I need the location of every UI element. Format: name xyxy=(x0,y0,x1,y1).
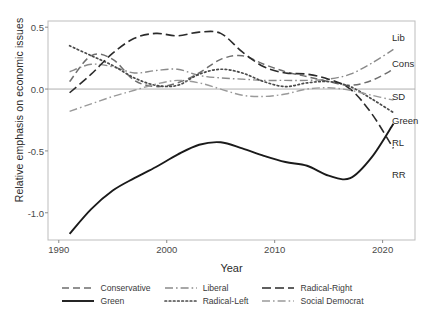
series-line-green xyxy=(70,124,394,234)
series-label-sd: SD xyxy=(392,91,405,102)
x-axis-tick-2: 2010 xyxy=(264,244,285,255)
liberal-key xyxy=(164,283,198,293)
legend-item-radical-left[interactable]: Radical-Left xyxy=(164,296,249,306)
legend-label: Conservative xyxy=(100,283,150,293)
series-label-lib: Lib xyxy=(392,32,405,43)
plot-area xyxy=(0,0,425,325)
radical-right-key xyxy=(261,283,295,293)
legend-item-green[interactable]: Green xyxy=(61,296,150,306)
legend-item-conservative[interactable]: Conservative xyxy=(61,283,150,293)
panel-border xyxy=(48,21,415,240)
green-key xyxy=(61,296,95,306)
x-axis-tick-0: 1990 xyxy=(48,244,69,255)
series-line-liberal xyxy=(70,49,394,80)
legend-label: Green xyxy=(100,296,124,306)
legend-item-radical-right[interactable]: Radical-Right xyxy=(261,283,363,293)
legend-label: Social Democrat xyxy=(300,296,363,306)
x-axis-tick-1: 2000 xyxy=(156,244,177,255)
legend-label: Liberal xyxy=(203,283,229,293)
legend-item-liberal[interactable]: Liberal xyxy=(164,283,249,293)
social-democrat-key xyxy=(261,296,295,306)
conservative-key xyxy=(61,283,95,293)
series-label-green: Green xyxy=(392,115,418,126)
x-axis-tick-3: 2020 xyxy=(372,244,393,255)
chart-legend: ConservativeLiberalRadical-RightGreenRad… xyxy=(0,283,425,306)
series-label-rr: RR xyxy=(392,169,406,180)
x-axis-label: Year xyxy=(48,262,415,274)
legend-label: Radical-Left xyxy=(203,296,249,306)
legend-label: Radical-Right xyxy=(300,283,352,293)
series-label-cons: Cons xyxy=(392,58,414,69)
legend-grid: ConservativeLiberalRadical-RightGreenRad… xyxy=(61,283,363,306)
legend-item-social-democrat[interactable]: Social Democrat xyxy=(261,296,363,306)
chart-figure: Relative emphasis on economic issues 0.5… xyxy=(0,0,425,325)
radical-left-key xyxy=(164,296,198,306)
series-label-rl: RL xyxy=(392,137,404,148)
